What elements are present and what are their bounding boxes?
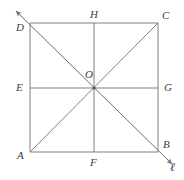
line-label-l: ℓ (170, 161, 175, 173)
vertex-label-B: B (163, 139, 170, 150)
vertex-label-F: F (90, 157, 97, 168)
vertex-label-O: O (85, 69, 93, 80)
figure-canvas (0, 0, 184, 180)
vertex-label-C: C (162, 10, 169, 21)
vertex-label-E: E (16, 82, 23, 93)
vertex-label-H: H (90, 9, 98, 20)
vertex-label-D: D (16, 22, 24, 33)
vertex-label-G: G (164, 82, 172, 93)
center-point-O (92, 86, 95, 89)
vertex-label-A: A (17, 150, 24, 161)
geometry-figure: A B C D E F G H O ℓ (0, 0, 184, 180)
